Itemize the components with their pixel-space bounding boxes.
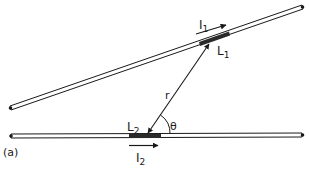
label-i2: I2: [136, 151, 145, 167]
label-l1: L1: [217, 44, 229, 60]
wire-2-left-end: [9, 134, 13, 138]
angle-arc-theta: [161, 115, 171, 134]
wire-1-left-end: [9, 106, 13, 110]
current-elements-diagram: I1 L1 L2 I2 r θ (a): [0, 0, 310, 174]
panel-label: (a): [3, 146, 18, 159]
label-theta: θ: [170, 120, 177, 133]
label-r: r: [165, 89, 170, 102]
wire-2-right-end: [301, 133, 305, 137]
wire-1: [9, 5, 305, 110]
wire-2: [9, 133, 304, 146]
wire-1-right-end: [301, 5, 305, 9]
label-l2: L2: [127, 120, 139, 136]
label-i1: I1: [199, 18, 208, 34]
